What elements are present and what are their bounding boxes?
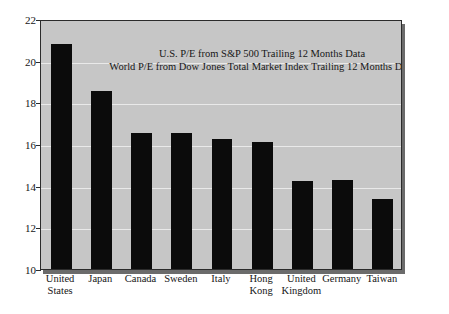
gridline-20: [41, 63, 401, 64]
bar: [171, 133, 192, 269]
y-tick-mark-12: [36, 228, 41, 229]
x-tick-label-line: Germany: [322, 273, 362, 285]
x-tick-label-line: Canada: [120, 273, 160, 285]
x-tick-label: Taiwan: [362, 273, 402, 285]
bar: [292, 181, 313, 269]
x-tick-label-line: Sweden: [161, 273, 201, 285]
x-tick-label-line: Italy: [201, 273, 241, 285]
bar: [91, 91, 112, 269]
y-axis: 10121416182022: [0, 20, 36, 270]
y-tick-mark-18: [36, 103, 41, 104]
y-tick-mark-22: [36, 20, 41, 21]
x-tick-label: Sweden: [161, 273, 201, 285]
x-tick-label-line: United: [40, 273, 80, 285]
y-tick-label-18: 18: [8, 98, 36, 109]
x-tick-label-line: Hong: [241, 273, 281, 285]
bar: [131, 133, 152, 269]
chart-figure: U.S. P/E from S&P 500 Trailing 12 Months…: [0, 0, 449, 314]
plot-area: U.S. P/E from S&P 500 Trailing 12 Months…: [40, 20, 402, 270]
bar: [51, 44, 72, 269]
x-tick-label-line: Japan: [80, 273, 120, 285]
x-tick-label: UnitedStates: [40, 273, 80, 296]
chart-annotation: U.S. P/E from S&P 500 Trailing 12 Months…: [81, 48, 402, 73]
annotation-line-1: U.S. P/E from S&P 500 Trailing 12 Months…: [81, 48, 402, 61]
y-tick-mark-20: [36, 62, 41, 63]
bar: [332, 180, 353, 269]
bar: [212, 139, 233, 269]
x-tick-label: HongKong: [241, 273, 281, 296]
x-tick-label-line: Kong: [241, 285, 281, 297]
bar: [372, 199, 393, 269]
x-tick-label-line: Taiwan: [362, 273, 402, 285]
y-tick-label-14: 14: [8, 181, 36, 192]
x-tick-label: UnitedKingdom: [281, 273, 321, 296]
y-tick-label-20: 20: [8, 56, 36, 67]
y-tick-mark-10: [36, 270, 41, 271]
x-tick-label: Germany: [322, 273, 362, 285]
y-tick-label-12: 12: [8, 223, 36, 234]
x-tick-label: Italy: [201, 273, 241, 285]
x-tick-label-line: Kingdom: [281, 285, 321, 297]
x-tick-label-line: United: [281, 273, 321, 285]
x-tick-label-line: States: [40, 285, 80, 297]
y-tick-mark-16: [36, 145, 41, 146]
x-tick-label: Canada: [120, 273, 160, 285]
bar: [252, 142, 273, 269]
y-tick-label-16: 16: [8, 140, 36, 151]
y-tick-label-22: 22: [8, 15, 36, 26]
y-tick-label-10: 10: [8, 265, 36, 276]
x-tick-label: Japan: [80, 273, 120, 285]
y-tick-mark-14: [36, 187, 41, 188]
x-axis: UnitedStatesJapanCanadaSwedenItalyHongKo…: [40, 273, 402, 313]
